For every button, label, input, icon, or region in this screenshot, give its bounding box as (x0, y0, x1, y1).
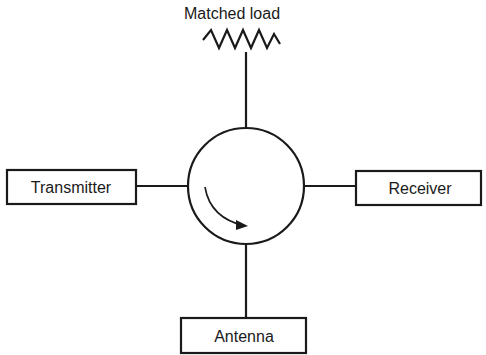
antenna-box: Antenna (181, 318, 306, 353)
circulator-diagram: Matched load Transmitter Receiver Antenn… (0, 0, 486, 355)
antenna-label: Antenna (214, 328, 274, 345)
resistor-icon (203, 30, 280, 48)
transmitter-box: Transmitter (7, 170, 136, 204)
receiver-label: Receiver (388, 180, 452, 197)
clockwise-arrow-icon (205, 187, 248, 230)
matched-load-label: Matched load (184, 5, 280, 22)
receiver-box: Receiver (356, 171, 481, 205)
transmitter-label: Transmitter (31, 179, 112, 196)
